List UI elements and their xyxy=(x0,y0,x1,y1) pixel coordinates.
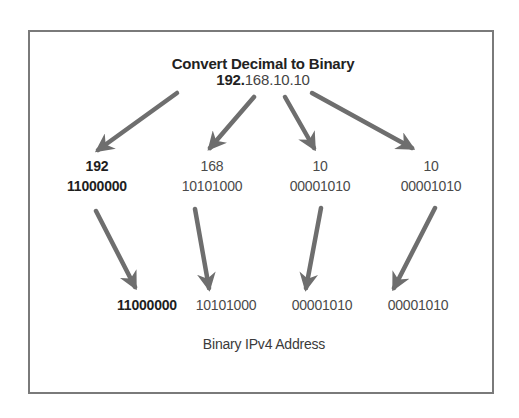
octet-1-decimal: 192 xyxy=(86,158,109,174)
diagram-title: Convert Decimal to Binary xyxy=(172,56,355,72)
arrow-icon-octet-4-to-result xyxy=(394,208,435,288)
arrow-icon-ip-to-octet-1 xyxy=(98,93,177,150)
arrow-icon-ip-to-octet-2 xyxy=(210,97,254,148)
arrow-icon-octet-2-to-result xyxy=(195,209,209,288)
arrow-icon-octet-1-to-result xyxy=(96,211,135,287)
octet-4-decimal: 10 xyxy=(423,158,438,174)
octet-3-decimal: 10 xyxy=(312,158,327,174)
octet-2-binary: 10101000 xyxy=(182,178,243,194)
ip-octet-1: 192 xyxy=(216,71,240,88)
arrow-icon-ip-to-octet-4 xyxy=(312,93,412,148)
octet-1-binary: 11000000 xyxy=(67,178,127,194)
binary-ipv4-caption: Binary IPv4 Address xyxy=(203,336,325,352)
result-octet-2: 10101000 xyxy=(196,297,257,313)
result-octet-4: 00001010 xyxy=(388,297,449,313)
result-octet-1: 11000000 xyxy=(117,297,177,313)
ip-octet-4: 10 xyxy=(293,71,309,88)
result-octet-3: 00001010 xyxy=(292,297,353,313)
ip-address: 192.168.10.10 xyxy=(216,72,309,88)
ip-octet-3: 10 xyxy=(273,71,289,88)
octet-3-binary: 00001010 xyxy=(290,178,351,194)
ip-octet-2: 168 xyxy=(245,71,269,88)
octet-4-binary: 00001010 xyxy=(401,178,462,194)
arrow-icon-ip-to-octet-3 xyxy=(285,97,314,148)
octet-2-decimal: 168 xyxy=(201,158,224,174)
arrow-icon-octet-3-to-result xyxy=(306,208,321,288)
